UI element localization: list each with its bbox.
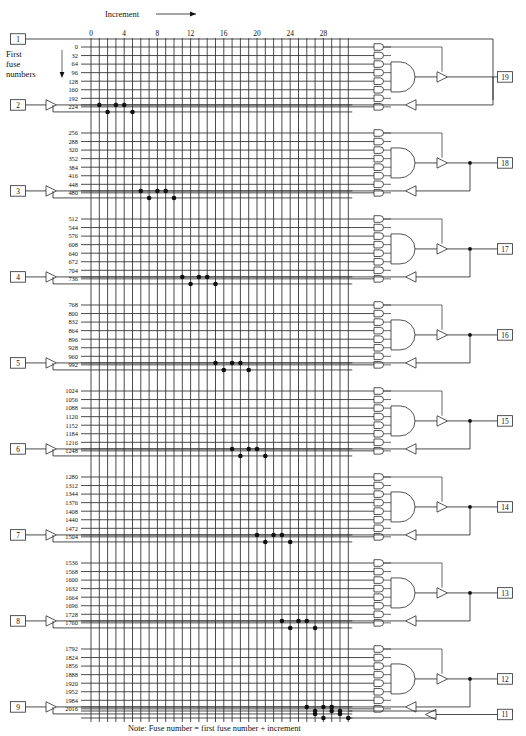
fuse-number-1024: 1024 — [65, 387, 79, 394]
product-term-symbol-2-5 — [374, 258, 383, 265]
fuse-number-1856: 1856 — [65, 662, 78, 669]
column-tick-label-4: 4 — [122, 29, 126, 38]
product-term-symbol-5-6 — [374, 525, 384, 532]
fuse-number-736: 736 — [68, 275, 78, 282]
output-enable-16 — [384, 305, 443, 330]
output-pin-14-label: 14 — [501, 503, 509, 512]
fuse-number-352: 352 — [68, 155, 78, 162]
fuse-dot-upper-7-23 — [280, 533, 285, 538]
fuse-number-1568: 1568 — [65, 568, 78, 575]
fuse-dot-upper-6-20 — [255, 447, 260, 452]
product-term-symbol-2-4 — [374, 250, 384, 257]
and-gate-18 — [391, 148, 415, 178]
product-term-symbol-5-0 — [374, 474, 384, 481]
product-term-symbol-3-1 — [374, 310, 384, 317]
fuse-number-1472: 1472 — [65, 525, 78, 532]
input-buffer-8 — [46, 616, 57, 626]
output-buffer-14 — [437, 502, 448, 512]
first-fuse-arrow-head — [60, 72, 65, 78]
feedback-inverter-13 — [406, 616, 417, 626]
product-term-symbol-1-1 — [374, 138, 384, 145]
bottom-fuse-dot-upper-29 — [329, 709, 334, 714]
fuse-number-1824: 1824 — [65, 654, 79, 661]
output-enable-13 — [384, 563, 443, 588]
bottom-fuse-dot-upper-30 — [338, 709, 343, 714]
output-enable-15 — [384, 391, 443, 416]
fuse-number-64: 64 — [72, 60, 79, 67]
first-fuse-label-line-2: numbers — [6, 69, 36, 79]
output-pin-16-label: 16 — [501, 331, 509, 340]
fuse-dot-upper-3-6 — [139, 189, 144, 194]
fuse-number-192: 192 — [68, 95, 78, 102]
fuse-number-1408: 1408 — [65, 508, 78, 515]
product-term-symbol-2-6 — [374, 267, 384, 274]
fuse-number-896: 896 — [68, 336, 78, 343]
fuse-dot-upper-4-13 — [197, 275, 202, 280]
input-pin-2-label: 2 — [16, 101, 20, 110]
column-tick-label-20: 20 — [253, 29, 261, 38]
footnote: Note: Fuse number = first fuse number + … — [128, 724, 301, 733]
fuse-number-864: 864 — [68, 327, 78, 334]
fuse-number-1728: 1728 — [65, 611, 78, 618]
product-term-symbol-6-0 — [374, 560, 384, 567]
product-term-symbol-1-6 — [374, 181, 383, 188]
output-buffer-18 — [437, 158, 448, 168]
pin-boxes-layer[interactable]: 119218317416515614713812911 — [11, 34, 513, 720]
feedback-node-18 — [468, 161, 472, 165]
feedback-inverter-16 — [406, 358, 417, 368]
product-term-symbol-7-1 — [374, 654, 383, 661]
fuse-dot-upper-2-1 — [97, 103, 102, 108]
product-term-symbol-1-5 — [374, 172, 384, 179]
output-enable-18 — [384, 133, 443, 158]
fuse-number-960: 960 — [68, 353, 78, 360]
input-pin-5-label: 5 — [16, 359, 20, 368]
fuse-dot-lower-4-15 — [213, 282, 218, 287]
feedback-trace-18 — [416, 163, 470, 191]
fuse-number-2016: 2016 — [65, 705, 78, 712]
fuse-number-1376: 1376 — [65, 499, 78, 506]
feedback-node-17 — [468, 247, 472, 251]
product-term-symbol-7-3 — [374, 671, 384, 678]
product-term-symbol-3-4 — [374, 336, 384, 343]
fuse-number-384: 384 — [68, 164, 78, 171]
fuse-number-1760: 1760 — [65, 619, 78, 626]
increment-arrow-head — [190, 12, 196, 17]
feedback-trace-15 — [416, 421, 470, 449]
fuse-number-1248: 1248 — [65, 447, 78, 454]
fuse-number-832: 832 — [68, 318, 78, 325]
fuse-dot-upper-2-3 — [114, 103, 119, 108]
fuse-number-224: 224 — [68, 103, 78, 110]
product-term-symbol-4-1 — [374, 396, 384, 403]
fuse-dot-lower-3-7 — [147, 196, 152, 201]
output-enable-17 — [384, 219, 443, 244]
feedback-trace-16 — [416, 335, 470, 363]
fuse-dot-upper-6-17 — [230, 447, 235, 452]
column-tick-label-24: 24 — [287, 29, 295, 38]
product-term-symbol-2-3 — [374, 241, 384, 248]
fuse-number-1280: 1280 — [65, 473, 78, 480]
product-term-symbol-7-4 — [374, 680, 383, 687]
fuse-dot-lower-7-24 — [288, 540, 293, 545]
first-fuse-label-line-0: First — [6, 49, 22, 59]
output-enable-19 — [384, 47, 443, 72]
product-term-symbol-0-2 — [374, 61, 384, 68]
feedback-trace-14 — [416, 507, 470, 535]
fuse-number-160: 160 — [68, 86, 78, 93]
fuse-dot-upper-4-14 — [205, 275, 210, 280]
output-buffer-13 — [437, 588, 448, 598]
fuse-dot-lower-5-19 — [246, 368, 251, 373]
product-term-symbol-2-0 — [374, 216, 384, 223]
fuse-number-800: 800 — [68, 310, 78, 317]
feedback-inverter-18 — [406, 186, 417, 196]
fuse-number-672: 672 — [68, 258, 78, 265]
fuse-number-576: 576 — [68, 232, 78, 239]
pal-fuse-map-diagram: 0481216202428IncrementFirstfusenumbers03… — [0, 0, 526, 736]
fuse-dot-upper-7-22 — [271, 533, 276, 538]
input-buffer-9 — [46, 702, 57, 712]
product-term-symbol-1-4 — [374, 164, 384, 171]
product-term-symbol-6-1 — [374, 568, 383, 575]
product-term-symbol-1-0 — [374, 130, 383, 137]
product-term-symbol-7-2 — [374, 663, 384, 670]
feedback-inverter-14 — [406, 530, 417, 540]
fuse-number-992: 992 — [68, 361, 78, 368]
